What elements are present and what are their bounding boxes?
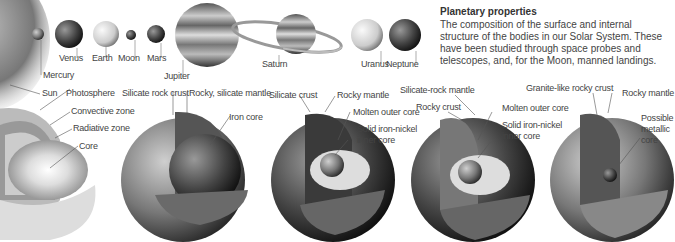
neptune-planet xyxy=(389,19,421,51)
label-earth-solid-iron-nickel: Solid iron-nickel xyxy=(502,120,562,130)
label-core: Core xyxy=(79,141,98,151)
label-venus: Venus xyxy=(59,53,83,63)
label-mars: Mars xyxy=(147,53,166,63)
label-iron-core: Iron core xyxy=(229,112,263,122)
label-venus-solid-iron-nickel: Solid iron-nickel xyxy=(357,124,417,134)
saturn-planet xyxy=(231,14,343,58)
label-silicate-rock-mantle: Silicate-rock mantle xyxy=(400,85,475,95)
label-photosphere: Photosphere xyxy=(66,88,115,98)
uranus-planet xyxy=(351,19,383,51)
label-neptune: Neptune xyxy=(386,59,419,69)
label-metallic: metallic xyxy=(641,124,670,134)
label-rocky-crust: Rocky crust xyxy=(416,102,461,112)
label-jupiter: Jupiter xyxy=(164,71,190,81)
label-rocky-silicate-mantle: Rocky, silicate mantle xyxy=(189,88,271,98)
jupiter-planet xyxy=(175,3,239,67)
label-earth-molten-outer-core: Molten outer core xyxy=(502,103,569,113)
label-venus-molten-outer-core: Molten outer core xyxy=(353,107,420,117)
label-silicate-rock-crust: Silicate rock crust xyxy=(122,88,189,98)
label-moon-core: core xyxy=(641,135,658,145)
label-moon-rocky-mantle: Rocky mantle xyxy=(622,88,674,98)
label-moon: Moon xyxy=(118,53,140,63)
mercury-planet xyxy=(32,28,44,40)
label-earth: Earth xyxy=(92,53,113,63)
label-saturn: Saturn xyxy=(262,59,287,69)
moon-planet xyxy=(126,30,136,40)
label-silicate-crust: Silicate crust xyxy=(269,90,317,100)
label-venus-rocky-mantle: Rocky mantle xyxy=(337,90,389,100)
label-mercury: Mercury xyxy=(43,70,74,80)
label-sun: Sun xyxy=(42,88,57,98)
label-venus-inner-core: inner core xyxy=(357,135,395,145)
label-radiative-zone: Radiative zone xyxy=(73,123,130,133)
diagram-description: The composition of the surface and inter… xyxy=(440,19,672,67)
mercury-cross-section xyxy=(121,112,248,242)
label-convective-zone: Convective zone xyxy=(71,106,135,116)
label-possible: Possible xyxy=(641,113,673,123)
label-uranus: Uranus xyxy=(361,59,389,69)
mars-planet xyxy=(147,25,165,43)
earth-planet xyxy=(93,21,119,47)
diagram-title: Planetary properties xyxy=(440,6,537,17)
venus-planet xyxy=(55,20,83,48)
planet-row xyxy=(32,3,421,67)
label-granite-like-rocky-crust: Granite-like rocky crust xyxy=(526,83,613,93)
label-earth-inner-core: inner core xyxy=(502,131,540,141)
